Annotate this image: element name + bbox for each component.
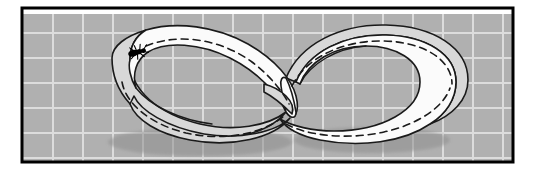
mobius-strip-figure — [0, 0, 535, 175]
illustration-canvas — [0, 0, 535, 175]
